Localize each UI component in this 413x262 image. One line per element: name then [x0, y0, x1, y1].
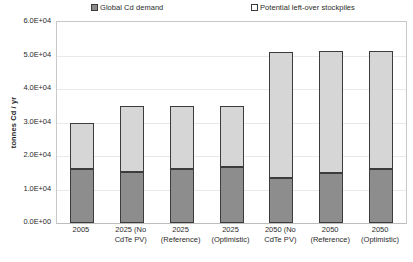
x-axis-tick-label-line: (Optimistic): [355, 235, 405, 245]
bar-segment-global-cd-demand[interactable]: [120, 172, 144, 223]
x-axis-tick-label-line: (Optimistic): [206, 235, 256, 245]
x-axis-tick-label-line: 2050 (No: [255, 225, 305, 235]
legend-label: Global Cd demand: [100, 3, 163, 12]
legend-swatch-hollow-icon: [251, 4, 258, 11]
x-axis-tick-label-line: CdTe PV): [255, 235, 305, 245]
y-axis-tick-label: 5.0E+04: [1, 51, 51, 59]
legend-item-global-cd-demand: Global Cd demand: [91, 3, 163, 12]
x-axis-tick-label-line: 2050: [355, 225, 405, 235]
chart-legend: Global Cd demand Potential left-over sto…: [0, 2, 413, 18]
x-axis-tick-label-line: 2050: [305, 225, 355, 235]
x-axis-tick-label-line: 2025 (No: [106, 225, 156, 235]
bar-segment-global-cd-demand[interactable]: [369, 169, 393, 223]
x-axis-line: [57, 223, 406, 224]
x-axis-tick-label: 2005: [56, 225, 106, 235]
bar-column[interactable]: [319, 22, 343, 223]
x-axis-tick-label: 2050(Reference): [305, 225, 355, 244]
bar-segment-potential-left-over-stockpiles[interactable]: [120, 106, 144, 172]
bar-column[interactable]: [70, 22, 94, 223]
bar-segment-global-cd-demand[interactable]: [220, 167, 244, 223]
stacked-bar-chart: Global Cd demand Potential left-over sto…: [0, 0, 413, 262]
bar-segment-global-cd-demand[interactable]: [70, 169, 94, 223]
x-axis-tick-label-line: CdTe PV): [106, 235, 156, 245]
x-axis-tick-label: 2025 (NoCdTe PV): [106, 225, 156, 244]
x-axis-tick-label: 2025(Optimistic): [206, 225, 256, 244]
plot-area: [56, 21, 407, 224]
bar-column[interactable]: [220, 22, 244, 223]
x-axis-tick-label-line: 2005: [56, 225, 106, 235]
y-axis-tick-label: 6.0E+04: [1, 17, 51, 25]
bar-segment-potential-left-over-stockpiles[interactable]: [369, 51, 393, 168]
bar-segment-global-cd-demand[interactable]: [269, 178, 293, 223]
x-axis-tick-label: 2025(Reference): [156, 225, 206, 244]
bar-segment-potential-left-over-stockpiles[interactable]: [70, 123, 94, 170]
x-axis-tick-label-line: (Reference): [305, 235, 355, 245]
x-axis-tick-label: 2050 (NoCdTe PV): [255, 225, 305, 244]
bar-segment-potential-left-over-stockpiles[interactable]: [269, 52, 293, 178]
bar-column[interactable]: [120, 22, 144, 223]
bar-series-group: [57, 22, 406, 223]
legend-item-potential-left-over-stockpiles: Potential left-over stockpiles: [251, 3, 355, 12]
bar-segment-potential-left-over-stockpiles[interactable]: [319, 51, 343, 172]
legend-label: Potential left-over stockpiles: [260, 3, 355, 12]
y-axis-tick-label: 2.0E+04: [1, 151, 51, 159]
x-axis-tick-labels: 20052025 (NoCdTe PV)2025(Reference)2025(…: [56, 225, 405, 261]
bar-segment-potential-left-over-stockpiles[interactable]: [170, 106, 194, 170]
x-axis-tick-label-line: 2025: [156, 225, 206, 235]
x-axis-tick-label-line: 2025: [206, 225, 256, 235]
x-axis-tick-label: 2050(Optimistic): [355, 225, 405, 244]
bar-column[interactable]: [269, 22, 293, 223]
bar-column[interactable]: [170, 22, 194, 223]
bar-segment-global-cd-demand[interactable]: [319, 173, 343, 223]
bar-segment-global-cd-demand[interactable]: [170, 169, 194, 223]
y-axis-tick-label: 1.0E+04: [1, 185, 51, 193]
y-axis-tick-labels: 0.0E+001.0E+042.0E+043.0E+044.0E+045.0E+…: [0, 21, 54, 222]
y-axis-tick-label: 4.0E+04: [1, 84, 51, 92]
x-axis-tick-label-line: (Reference): [156, 235, 206, 245]
bar-column[interactable]: [369, 22, 393, 223]
y-axis-tick-label: 3.0E+04: [1, 118, 51, 126]
y-axis-tick-label: 0.0E+00: [1, 218, 51, 226]
legend-swatch-filled-icon: [91, 4, 98, 11]
bar-segment-potential-left-over-stockpiles[interactable]: [220, 106, 244, 167]
